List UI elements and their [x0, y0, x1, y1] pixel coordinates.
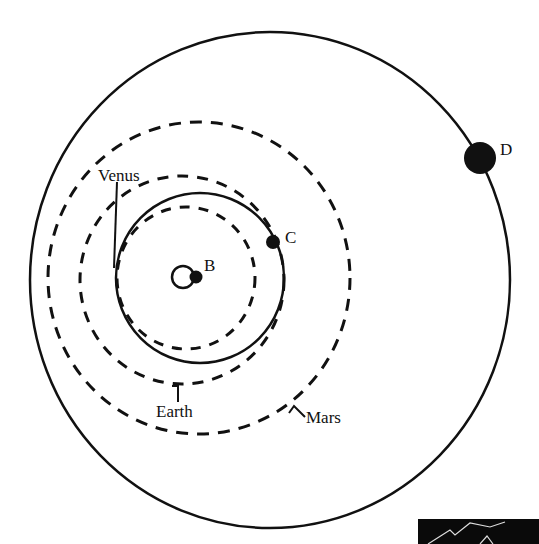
venus-leader-line — [114, 182, 117, 268]
point-b-label: B — [204, 256, 215, 275]
point-b-dot — [190, 271, 203, 284]
point-d-dot — [464, 142, 496, 174]
point-d-label: D — [500, 140, 512, 159]
venus-orbit — [117, 207, 255, 349]
cropped-image-fragment — [418, 519, 539, 544]
mars-leader-line — [289, 406, 305, 417]
earth-leader-line — [172, 386, 178, 402]
outer-orbit — [30, 32, 510, 528]
point-c-dot — [266, 235, 280, 249]
venus-label: Venus — [98, 166, 140, 185]
orbit-diagram: Venus Earth Mars B C D — [0, 0, 539, 544]
mars-label: Mars — [306, 408, 341, 427]
earth-label: Earth — [156, 402, 193, 421]
point-c-label: C — [285, 228, 296, 247]
